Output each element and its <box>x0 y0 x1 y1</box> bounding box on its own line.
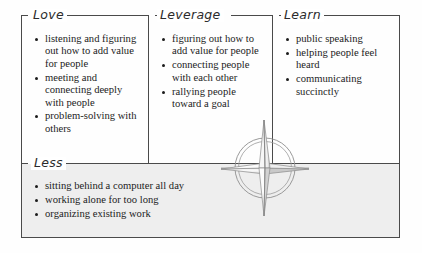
list-item: rallying people toward a goal <box>161 86 265 111</box>
divider-above-less <box>21 163 28 164</box>
list-item: problem-solving with others <box>34 110 140 135</box>
section-label-leverage: Leverage <box>157 9 224 22</box>
section-label-love: Love <box>30 9 67 22</box>
list-learn: public speaking helping people feel hear… <box>285 33 393 100</box>
top-border-segment-4 <box>231 15 272 16</box>
section-label-less: Less <box>31 157 66 170</box>
top-border-segment-6 <box>321 15 400 16</box>
divider-love-leverage <box>148 15 149 164</box>
list-item: listening and figuring out how to add va… <box>34 33 140 70</box>
list-item: helping people feel heard <box>285 47 393 72</box>
list-leverage: figuring out how to add value for people… <box>161 33 265 112</box>
list-item: meeting and connecting deeply with peopl… <box>34 72 140 109</box>
top-border-segment-1 <box>21 15 28 16</box>
list-item: communicating succinctly <box>285 73 393 98</box>
list-item: figuring out how to add value for people <box>161 33 265 58</box>
diagram-canvas: Love Leverage Learn Less listening and f… <box>0 0 422 253</box>
list-item: connecting people with each other <box>161 59 265 84</box>
compass-rose-icon <box>215 118 315 218</box>
list-love: listening and figuring out how to add va… <box>34 33 140 137</box>
section-label-learn: Learn <box>281 9 324 22</box>
list-item: public speaking <box>285 33 393 45</box>
top-border-segment-2 <box>64 15 148 16</box>
